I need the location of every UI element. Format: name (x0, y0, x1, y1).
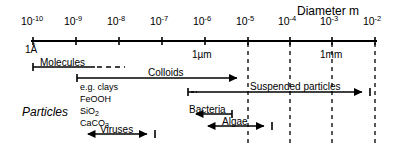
range-label: Bacteria (189, 105, 226, 115)
axis-tick-label: 10-5 (236, 16, 254, 27)
axis-tick-label: 10-9 (64, 16, 82, 27)
axis-tick-label: 10-2 (363, 16, 381, 27)
unit-marker: 1µm (192, 50, 212, 60)
axis-tick-label: 10-10 (21, 16, 43, 27)
axis-tick-label: 10-4 (278, 16, 296, 27)
axis-tick-label: 10-8 (107, 16, 125, 27)
unit-marker: 1mm (320, 50, 342, 60)
range-label: Colloids (148, 68, 184, 78)
range-label: Molecules (40, 58, 85, 68)
mineral-example: CaCO3 (80, 119, 109, 128)
axis-tick-label: 10-7 (150, 16, 168, 27)
mineral-example: FeOOH (80, 95, 111, 104)
range-label: Algae (222, 117, 248, 127)
axis-tick-label: 10-6 (193, 16, 211, 27)
angstrom-marker: 1Å (25, 45, 37, 55)
axis-tick-label: 10-3 (320, 16, 338, 27)
particle-size-scale-figure: Diameter m 1Å Particles 10-1010-910-810-… (0, 0, 404, 151)
group-label-particles: Particles (22, 106, 68, 118)
mineral-example: e.g. clays (80, 83, 118, 92)
range-label: Suspended particles (250, 82, 341, 92)
mineral-example: SiO2 (80, 107, 99, 116)
